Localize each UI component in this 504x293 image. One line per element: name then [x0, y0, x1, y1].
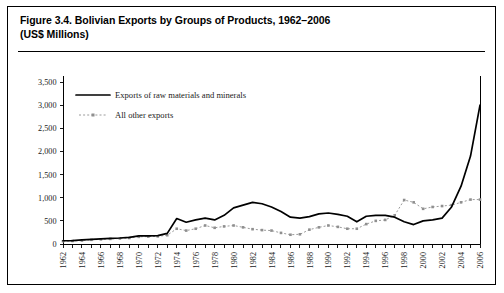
figure-container: Figure 3.4. Bolivian Exports by Groups o…	[7, 6, 496, 285]
x-axis-tick-label: 1978	[211, 252, 220, 268]
x-axis-tick-label: 1972	[154, 252, 163, 268]
y-axis-tick-label: 0	[52, 240, 56, 249]
legend-label-all-other-exports: All other exports	[115, 110, 174, 120]
x-axis-tick-label: 1996	[381, 252, 390, 268]
x-axis-tick-label: 1998	[400, 252, 409, 268]
y-axis-tick-label: 500	[44, 217, 56, 226]
page-subtitle: (US$ Millions)	[20, 28, 480, 42]
x-axis-tick-label: 1982	[249, 252, 258, 268]
series-markers-all-other-exports	[62, 198, 482, 242]
x-axis-tick-label: 1976	[192, 252, 201, 268]
x-axis-tick-label: 1966	[97, 252, 106, 268]
x-axis-tick-label: 1992	[343, 252, 352, 268]
x-axis-tick-label: 2000	[419, 252, 428, 268]
x-axis-tick-label: 1990	[324, 252, 333, 268]
y-axis-tick-label: 2,000	[38, 147, 56, 156]
series-line-raw-materials	[63, 105, 480, 241]
x-axis-group: 1962196419661968197019721974197619781980…	[59, 244, 485, 268]
series-line-all-other-exports	[63, 200, 480, 242]
x-axis-tick-label: 1994	[362, 252, 371, 268]
x-axis-tick-label: 2006	[476, 252, 485, 268]
x-axis-tick-label: 1974	[173, 252, 182, 268]
x-axis-tick-label: 1980	[230, 252, 239, 268]
chart-plot-area: 05001,0001,5002,0002,5003,0003,500 19621…	[8, 53, 495, 284]
chart-legend: Exports of raw materials and minerals Al…	[76, 90, 247, 120]
x-axis-tick-label: 1968	[116, 252, 125, 268]
y-axis-tick-label: 3,000	[38, 101, 56, 110]
y-axis-group: 05001,0001,5002,0002,5003,0003,500	[38, 78, 63, 249]
y-axis-tick-label: 2,500	[38, 124, 56, 133]
x-axis-tick-label: 2002	[438, 252, 447, 268]
x-axis-tick-label: 2004	[457, 252, 466, 268]
x-axis-tick-label: 1988	[306, 252, 315, 268]
x-axis-tick-label: 1986	[287, 252, 296, 268]
x-axis-tick-label: 1984	[268, 252, 277, 268]
y-axis-tick-label: 3,500	[38, 78, 56, 87]
x-axis-tick-label: 1970	[135, 252, 144, 268]
line-chart: 05001,0001,5002,0002,5003,0003,500 19621…	[8, 53, 495, 284]
y-axis-tick-label: 1,500	[38, 171, 56, 180]
legend-label-raw-materials: Exports of raw materials and minerals	[115, 90, 247, 100]
legend-marker-all-other-exports	[92, 114, 95, 117]
page-title: Figure 3.4. Bolivian Exports by Groups o…	[20, 14, 480, 28]
x-axis-tick-label: 1964	[78, 252, 87, 268]
figure-title-block: Figure 3.4. Bolivian Exports by Groups o…	[20, 14, 480, 41]
x-axis-tick-label: 1962	[59, 252, 68, 268]
y-axis-tick-label: 1,000	[38, 194, 56, 203]
